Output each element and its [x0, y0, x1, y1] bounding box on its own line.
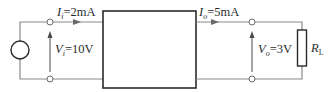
input-current-label: Ii=2mA [56, 5, 95, 21]
load-resistor-label: RL [310, 41, 324, 57]
input-voltage-label: Vi=10V [55, 42, 93, 58]
input-current-arrow-icon [73, 19, 81, 25]
output-voltage-label: Vo=3V [258, 42, 292, 58]
input-voltage-arrow-icon [48, 31, 53, 72]
input-terminal-top [47, 19, 53, 25]
output-voltage-arrow-icon [250, 31, 255, 72]
output-terminal-bottom [249, 76, 255, 82]
circuit-diagram: Ii=2mA Vi=10V Io=5mA Vo=3V RL [0, 0, 329, 92]
output-terminal-top [249, 19, 255, 25]
output-current-label: Io=5mA [198, 5, 239, 21]
input-terminal-bottom [47, 76, 53, 82]
load-resistor-icon [298, 30, 307, 66]
voltage-source-icon [11, 41, 29, 59]
output-current-arrow-icon [211, 19, 219, 25]
two-port-network-box [103, 11, 196, 88]
